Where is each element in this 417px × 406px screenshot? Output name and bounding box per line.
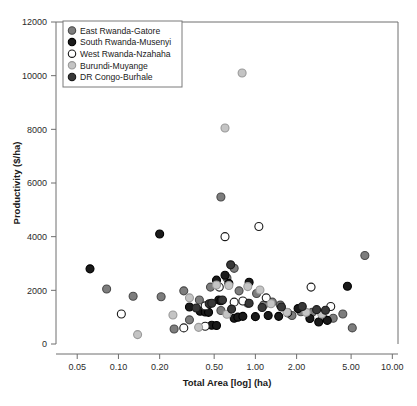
data-point (235, 287, 243, 295)
data-point (339, 310, 347, 318)
data-point (225, 282, 233, 290)
data-point (323, 316, 331, 324)
data-point (208, 299, 216, 307)
data-point (244, 283, 252, 291)
data-point (277, 303, 285, 311)
legend-marker (68, 27, 75, 34)
data-point (185, 316, 193, 324)
data-point (258, 304, 266, 312)
data-point (298, 302, 306, 310)
data-point (117, 310, 125, 318)
data-point (170, 325, 178, 333)
data-point (86, 265, 94, 273)
data-point (221, 124, 229, 132)
legend-marker (68, 50, 75, 57)
data-point (212, 321, 220, 329)
data-point (245, 299, 253, 307)
x-tick-label: 10.00 (381, 362, 404, 372)
data-point (192, 304, 200, 312)
legend-label: West Rwanda-Nzahaha (80, 49, 171, 59)
y-tick-label: 12000 (22, 17, 47, 27)
scatter-plot-figure: 0200040006000800010000120000.050.100.200… (0, 0, 417, 406)
chart-canvas: 0200040006000800010000120000.050.100.200… (0, 0, 417, 406)
x-tick-label: 0.10 (110, 362, 128, 372)
data-point (134, 331, 142, 339)
data-point (221, 233, 229, 241)
y-tick-label: 0 (42, 339, 47, 349)
data-point (251, 313, 259, 321)
data-point (307, 283, 315, 291)
y-tick-label: 2000 (27, 286, 47, 296)
x-tick-label: 0.20 (151, 362, 169, 372)
data-point (157, 293, 165, 301)
legend-label: Burundi-Muyange (80, 61, 148, 71)
data-point (227, 261, 235, 269)
data-point (238, 69, 246, 77)
legend-label: South Rwanda-Musenyi (80, 37, 171, 47)
legend-label: DR Congo-Burhale (80, 72, 153, 82)
x-tick-label: 0.05 (68, 362, 86, 372)
data-point (180, 287, 188, 295)
y-tick-label: 8000 (27, 125, 47, 135)
data-point (169, 311, 177, 319)
y-tick-label: 6000 (27, 178, 47, 188)
data-point (156, 230, 164, 238)
legend-marker (68, 38, 75, 45)
data-point (343, 282, 351, 290)
data-point (275, 312, 283, 320)
data-point (348, 324, 356, 332)
data-point (103, 285, 111, 293)
data-point (195, 323, 203, 331)
x-tick-label: 2.00 (288, 362, 306, 372)
data-point (218, 296, 226, 304)
legend-label: East Rwanda-Gatore (80, 26, 160, 36)
data-point (361, 251, 369, 259)
x-tick-label: 1.00 (247, 362, 265, 372)
y-axis-title: Productivity ($/ha) (11, 142, 22, 225)
data-point (217, 193, 225, 201)
data-point (239, 312, 247, 320)
data-point (313, 306, 321, 314)
data-point (321, 306, 329, 314)
data-point (129, 292, 137, 300)
data-point (267, 300, 275, 308)
x-tick-label: 0.50 (205, 362, 223, 372)
data-point (228, 305, 236, 313)
data-point (256, 286, 264, 294)
data-point (221, 271, 229, 279)
y-tick-label: 4000 (27, 232, 47, 242)
legend-marker (68, 73, 75, 80)
y-tick-label: 10000 (22, 71, 47, 81)
legend-marker (68, 62, 75, 69)
data-point (255, 222, 263, 230)
data-point (212, 281, 220, 289)
data-point (264, 312, 272, 320)
x-axis-title: Total Area [log] (ha) (183, 377, 272, 388)
data-point (185, 294, 193, 302)
x-tick-label: 5.00 (342, 362, 360, 372)
data-point (180, 324, 188, 332)
data-point (315, 318, 323, 326)
